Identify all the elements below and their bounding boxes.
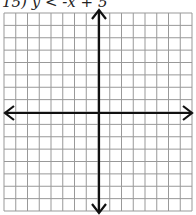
coordinate-grid: [0, 0, 196, 215]
